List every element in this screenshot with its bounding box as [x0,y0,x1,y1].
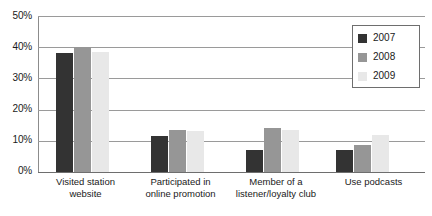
category-label-line-1: Visited station [38,176,133,188]
y-tick-label-20: 20% [13,104,32,114]
category-label-line-2: online promotion [133,188,228,200]
category-label-line-2: website [38,188,133,200]
y-axis: 50% 40% 30% 20% 10% 0% [0,0,36,216]
legend-label-2007: 2007 [373,33,395,43]
category-label-line-1: Member of a [226,176,326,188]
category-label-use-podcasts: Use podcasts [326,176,421,188]
legend-swatch-icon-2008 [358,53,367,62]
bar-2007[interactable] [56,53,73,172]
bar-2007[interactable] [151,136,168,172]
bar-2008[interactable] [264,128,281,172]
y-tick-label-10: 10% [13,135,32,145]
bar-2008[interactable] [169,130,186,172]
y-tick-label-50: 50% [13,11,32,21]
x-axis-category-labels: Visited station website Participated in … [38,176,425,216]
bar-2008[interactable] [354,145,371,172]
y-tick-label-0: 0% [18,166,32,176]
category-label-line-1: Participated in [133,176,228,188]
category-label-participated-in-online-promotion: Participated in online promotion [133,176,228,200]
bar-2009[interactable] [187,131,204,172]
legend: 2007 2008 2009 [352,25,420,88]
legend-label-2008: 2008 [373,52,395,62]
gridline-0 [38,172,425,173]
category-label-visited-station-website: Visited station website [38,176,133,200]
legend-label-2009: 2009 [373,71,395,81]
bar-chart: 50% 40% 30% 20% 10% 0% [0,0,432,216]
bar-2009[interactable] [372,135,389,172]
y-tick-label-40: 40% [13,42,32,52]
legend-item-2008[interactable]: 2008 [358,49,395,65]
bar-2007[interactable] [246,150,263,172]
category-label-line-2: listener/loyalty club [226,188,326,200]
legend-item-2009[interactable]: 2009 [358,68,395,84]
legend-swatch-icon-2007 [358,34,367,43]
category-label-member-of-a-listener-loyalty-club: Member of a listener/loyalty club [226,176,326,200]
bar-2007[interactable] [336,150,353,172]
legend-swatch-icon-2009 [358,72,367,81]
bar-2009[interactable] [282,130,299,172]
bar-2008[interactable] [74,47,91,172]
bar-2009[interactable] [92,52,109,172]
category-label-line-1: Use podcasts [326,176,421,188]
legend-item-2007[interactable]: 2007 [358,30,395,46]
y-tick-label-30: 30% [13,73,32,83]
